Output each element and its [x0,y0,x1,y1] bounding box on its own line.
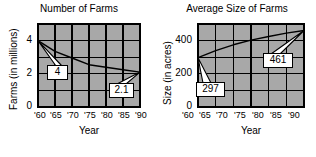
x-axis-label: Year [38,125,140,136]
x-tick-label: '60 [34,110,46,120]
x-tick-label: '75 [234,110,246,120]
chart-number-of-farms: Number of Farms Farms (in millions) 4 2 … [0,0,158,157]
x-tick-label: '65 [50,110,62,120]
x-axis-label: Year [198,125,304,136]
x-tick-label: '60 [182,110,194,120]
chart-average-size-of-farms: Average Size of Farms Size (in acres) 40… [158,0,316,157]
x-tick-label: '70 [216,110,228,120]
x-tick-label: '85 [118,110,130,120]
callout-value: 4 [47,65,68,80]
x-tick-label: '90 [135,110,147,120]
callout-value: 461 [263,53,293,68]
x-tick-label: '80 [252,110,264,120]
two-chart-figure: Number of Farms Farms (in millions) 4 2 … [0,0,316,157]
x-tick-label: '85 [270,110,282,120]
x-tick-label: '75 [84,110,96,120]
callout-value: 297 [196,82,225,97]
x-tick-label: '90 [288,110,300,120]
x-tick-label: '70 [67,110,79,120]
x-tick-label: '65 [199,110,211,120]
x-tick-label: '80 [101,110,113,120]
callout-value: 2.1 [109,83,134,98]
